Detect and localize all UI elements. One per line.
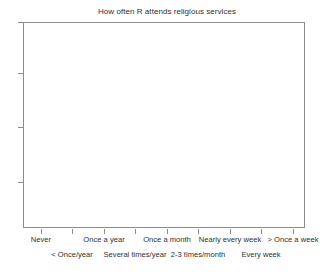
plot-figure: How often R attends religious services N… (0, 0, 334, 274)
y-axis-tick-1 (18, 22, 23, 23)
x-axis-tick-1 (41, 229, 42, 234)
x-axis-label-once-a-year: Once a year (83, 235, 124, 244)
x-axis-tick-4 (135, 229, 136, 234)
x-axis-label-every-week: Every week (241, 250, 280, 259)
plot-panel (23, 22, 305, 228)
x-axis-label-once-a-month: Once a month (143, 235, 191, 244)
x-axis-label-less-than-once-per-year: < Once/year (51, 250, 93, 259)
chart-title: How often R attends religious services (0, 7, 334, 17)
y-axis-tick-3 (18, 127, 23, 128)
y-axis-tick-4 (18, 182, 23, 183)
y-axis-tick-2 (18, 73, 23, 74)
x-axis-tick-2 (72, 229, 73, 234)
x-axis-tick-9 (293, 229, 294, 234)
x-axis-label-never: Never (31, 235, 51, 244)
x-axis-label-2-3-times-per-month: 2-3 times/month (171, 250, 225, 259)
x-axis-tick-6 (198, 229, 199, 234)
x-axis-label-nearly-every-week: Nearly every week (199, 235, 261, 244)
x-axis-tick-8 (261, 229, 262, 234)
x-axis-label-more-than-once-a-week: > Once a week (268, 235, 319, 244)
x-axis-label-several-times-per-year: Several times/year (104, 250, 167, 259)
x-axis-tick-7 (230, 229, 231, 234)
x-axis-tick-3 (104, 229, 105, 234)
x-axis-tick-5 (167, 229, 168, 234)
